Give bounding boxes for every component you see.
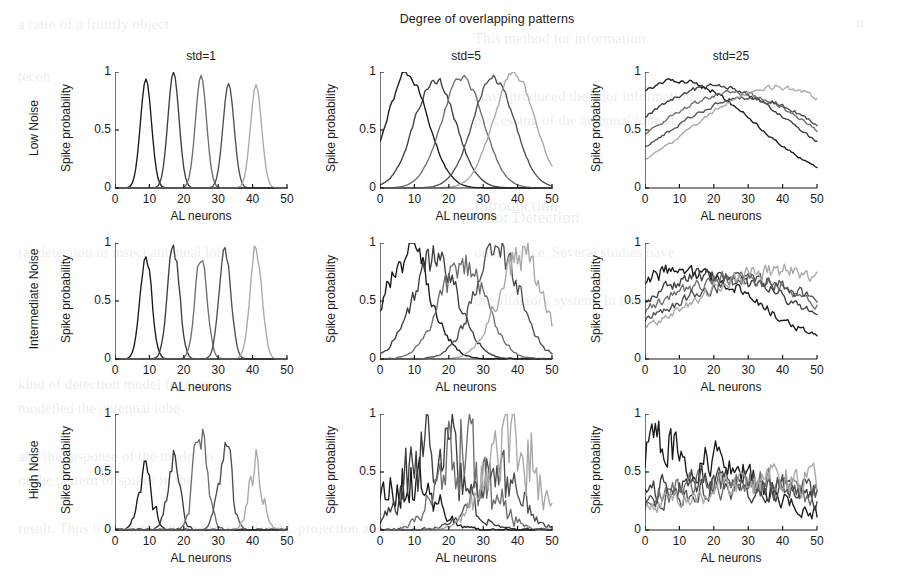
x-tick-label: 40 bbox=[240, 192, 266, 206]
x-tick-label: 50 bbox=[539, 534, 565, 548]
y-tick-label: 0.5 bbox=[79, 464, 111, 478]
y-tick-label: 0.5 bbox=[609, 122, 641, 136]
x-tick-label: 20 bbox=[171, 192, 197, 206]
axis-spines bbox=[115, 72, 287, 188]
data-trace bbox=[115, 261, 287, 359]
y-tick-label: 0.5 bbox=[344, 293, 376, 307]
data-trace bbox=[115, 257, 287, 359]
y-axis-label: Spike probability bbox=[59, 405, 73, 535]
plot-canvas bbox=[115, 243, 293, 365]
x-tick-label: 30 bbox=[205, 192, 231, 206]
data-trace bbox=[380, 255, 552, 359]
data-trace bbox=[115, 246, 287, 359]
data-trace bbox=[380, 79, 552, 188]
x-tick-label: 20 bbox=[701, 534, 727, 548]
x-tick-label: 40 bbox=[770, 363, 796, 377]
plot-panel bbox=[380, 72, 558, 194]
x-axis-label: AL neurons bbox=[141, 380, 261, 394]
y-tick-label: 1 bbox=[79, 406, 111, 420]
y-tick-label: 1 bbox=[609, 235, 641, 249]
x-tick-label: 20 bbox=[171, 363, 197, 377]
y-tick-label: 1 bbox=[79, 64, 111, 78]
x-tick-label: 20 bbox=[436, 534, 462, 548]
y-axis-label: Spike probability bbox=[589, 405, 603, 535]
plot-panel bbox=[380, 243, 558, 365]
x-tick-label: 0 bbox=[102, 192, 128, 206]
y-tick-label: 0.5 bbox=[609, 293, 641, 307]
x-tick-label: 10 bbox=[666, 363, 692, 377]
plot-canvas bbox=[645, 72, 823, 194]
data-trace bbox=[115, 79, 287, 188]
x-tick-label: 50 bbox=[804, 363, 830, 377]
plot-panel bbox=[645, 243, 823, 365]
x-tick-label: 20 bbox=[171, 534, 197, 548]
plot-canvas bbox=[645, 243, 823, 365]
plot-panel bbox=[645, 414, 823, 536]
data-trace bbox=[380, 414, 552, 530]
x-tick-label: 0 bbox=[632, 534, 658, 548]
y-tick-label: 1 bbox=[344, 406, 376, 420]
x-tick-label: 50 bbox=[274, 363, 300, 377]
data-trace bbox=[380, 72, 552, 188]
y-tick-label: 0.5 bbox=[609, 464, 641, 478]
y-axis-label: Spike probability bbox=[59, 63, 73, 193]
plot-canvas bbox=[380, 243, 558, 365]
x-tick-label: 30 bbox=[205, 534, 231, 548]
x-tick-label: 50 bbox=[274, 534, 300, 548]
x-tick-label: 10 bbox=[401, 534, 427, 548]
data-trace bbox=[115, 429, 287, 530]
x-tick-label: 30 bbox=[735, 363, 761, 377]
axis-spines bbox=[115, 243, 287, 359]
y-axis-label: Spike probability bbox=[59, 234, 73, 364]
x-tick-label: 30 bbox=[735, 534, 761, 548]
row-label-high-noise: High Noise bbox=[27, 410, 41, 530]
data-trace bbox=[115, 84, 287, 188]
x-axis-label: AL neurons bbox=[141, 209, 261, 223]
y-axis-label: Spike probability bbox=[324, 234, 338, 364]
y-tick-label: 0.5 bbox=[344, 122, 376, 136]
y-axis-label: Spike probability bbox=[324, 405, 338, 535]
x-tick-label: 0 bbox=[367, 363, 393, 377]
plot-panel bbox=[645, 72, 823, 194]
x-axis-label: AL neurons bbox=[141, 551, 261, 565]
x-tick-label: 40 bbox=[505, 192, 531, 206]
data-trace bbox=[115, 75, 287, 188]
y-tick-label: 0.5 bbox=[79, 293, 111, 307]
data-trace bbox=[645, 264, 817, 327]
x-tick-label: 30 bbox=[470, 363, 496, 377]
x-tick-label: 30 bbox=[470, 534, 496, 548]
plot-panel bbox=[115, 414, 293, 536]
row-label-intermediate-noise: Intermediate Noise bbox=[27, 239, 41, 359]
x-axis-label: AL neurons bbox=[671, 209, 791, 223]
column-title-std1: std=1 bbox=[101, 49, 301, 63]
x-tick-label: 10 bbox=[136, 192, 162, 206]
x-axis-label: AL neurons bbox=[406, 551, 526, 565]
plot-canvas bbox=[380, 72, 558, 194]
plot-canvas bbox=[115, 72, 293, 194]
x-tick-label: 20 bbox=[436, 363, 462, 377]
y-tick-label: 1 bbox=[609, 64, 641, 78]
x-tick-label: 50 bbox=[804, 192, 830, 206]
x-tick-label: 0 bbox=[102, 534, 128, 548]
data-trace bbox=[645, 421, 817, 519]
x-tick-label: 40 bbox=[505, 534, 531, 548]
x-tick-label: 0 bbox=[367, 534, 393, 548]
x-tick-label: 50 bbox=[274, 192, 300, 206]
plot-panel bbox=[380, 414, 558, 536]
x-tick-label: 20 bbox=[701, 363, 727, 377]
x-tick-label: 20 bbox=[436, 192, 462, 206]
data-trace bbox=[115, 85, 287, 188]
x-tick-label: 40 bbox=[505, 363, 531, 377]
x-axis-label: AL neurons bbox=[671, 380, 791, 394]
y-tick-label: 1 bbox=[609, 406, 641, 420]
x-tick-label: 10 bbox=[136, 534, 162, 548]
x-axis-label: AL neurons bbox=[671, 551, 791, 565]
y-axis-label: Spike probability bbox=[324, 63, 338, 193]
x-tick-label: 10 bbox=[401, 363, 427, 377]
data-trace bbox=[645, 91, 817, 135]
plot-canvas bbox=[115, 414, 293, 536]
x-tick-label: 40 bbox=[240, 534, 266, 548]
y-tick-label: 1 bbox=[344, 64, 376, 78]
x-tick-label: 10 bbox=[136, 363, 162, 377]
plot-panel bbox=[115, 243, 293, 365]
